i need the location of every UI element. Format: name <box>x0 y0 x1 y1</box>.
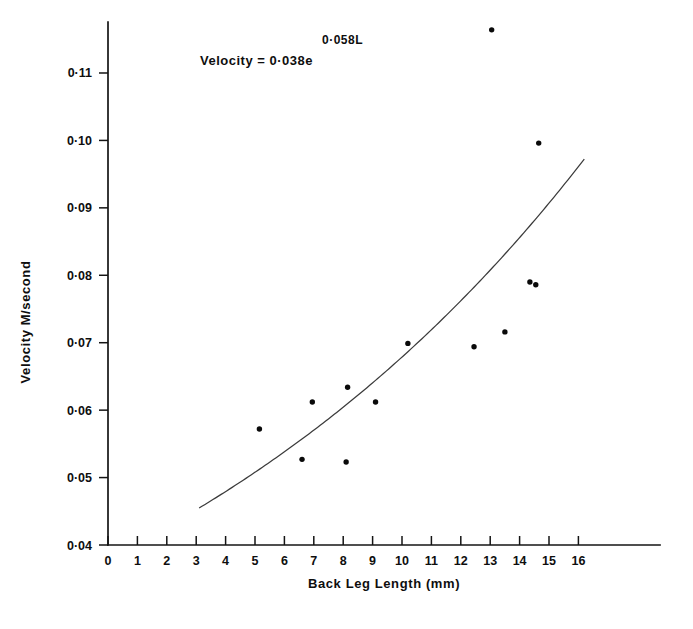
figure-container: 0·040·050·060·070·080·090·100·11 0123456… <box>0 0 693 629</box>
data-point <box>373 399 378 404</box>
y-axis-title: Velocity M/second <box>18 261 33 384</box>
x-tick-label-16: 16 <box>571 554 585 568</box>
y-tick-label-0·06: 0·06 <box>67 404 92 418</box>
x-tick-label-1: 1 <box>134 554 141 568</box>
x-tick-label-10: 10 <box>395 554 409 568</box>
x-tick-label-14: 14 <box>513 554 527 568</box>
data-point <box>345 385 350 390</box>
exponential-fit-curve <box>199 159 584 508</box>
x-axis-ticks <box>108 536 578 545</box>
x-tick-label-9: 9 <box>369 554 376 568</box>
y-axis-tick-labels: 0·040·050·060·070·080·090·100·11 <box>67 66 92 552</box>
y-tick-label-0·05: 0·05 <box>67 471 92 485</box>
data-point <box>471 344 476 349</box>
data-point <box>299 457 304 462</box>
x-tick-label-3: 3 <box>193 554 200 568</box>
data-point <box>405 341 410 346</box>
y-tick-label-0·07: 0·07 <box>67 336 92 350</box>
y-axis-ticks <box>99 73 108 545</box>
data-point <box>257 426 262 431</box>
data-point <box>343 459 348 464</box>
x-tick-label-4: 4 <box>222 554 229 568</box>
axes-group <box>108 22 660 545</box>
x-axis-tick-labels: 012345678910111213141516 <box>105 554 586 568</box>
y-tick-label-0·04: 0·04 <box>67 539 92 553</box>
data-point-group <box>257 27 542 465</box>
scatter-plot: 0·040·050·060·070·080·090·100·11 0123456… <box>0 0 693 629</box>
y-tick-label-0·10: 0·10 <box>67 134 92 148</box>
data-point <box>489 27 494 32</box>
fit-equation-base: Velocity = 0·038e <box>200 53 313 68</box>
x-tick-label-2: 2 <box>163 554 170 568</box>
x-tick-label-6: 6 <box>281 554 288 568</box>
x-tick-label-7: 7 <box>310 554 317 568</box>
data-point <box>536 140 541 145</box>
x-axis-title: Back Leg Length (mm) <box>308 576 460 591</box>
x-tick-label-15: 15 <box>542 554 556 568</box>
x-tick-label-13: 13 <box>483 554 497 568</box>
y-tick-label-0·09: 0·09 <box>67 201 92 215</box>
x-tick-label-0: 0 <box>105 554 112 568</box>
y-tick-label-0·11: 0·11 <box>68 66 92 80</box>
fit-equation-exponent: 0·058L <box>322 33 363 47</box>
x-tick-label-5: 5 <box>252 554 259 568</box>
data-point <box>502 329 507 334</box>
x-tick-label-8: 8 <box>340 554 347 568</box>
data-point <box>527 279 532 284</box>
data-point <box>310 399 315 404</box>
y-tick-label-0·08: 0·08 <box>67 269 92 283</box>
data-point <box>533 282 538 287</box>
x-tick-label-12: 12 <box>454 554 468 568</box>
x-tick-label-11: 11 <box>425 554 438 568</box>
